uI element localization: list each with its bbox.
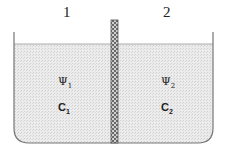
potential-1-symbol: Ψ	[58, 75, 68, 88]
compartment-1-label: 1	[63, 4, 71, 21]
potential-2-label: Ψ2	[161, 75, 175, 90]
concentration-2-subscript: 2	[169, 108, 173, 115]
membrane	[111, 20, 118, 143]
potential-1-label: Ψ1	[58, 75, 72, 90]
concentration-1-symbol: C	[58, 101, 66, 113]
potential-2-symbol: Ψ	[161, 75, 171, 88]
potential-1-subscript: 1	[68, 82, 72, 90]
potential-2-subscript: 2	[171, 82, 175, 90]
concentration-2-symbol: C	[161, 101, 169, 113]
concentration-1-label: C1	[58, 101, 70, 115]
compartment-2-label: 2	[163, 4, 171, 21]
concentration-1-subscript: 1	[66, 108, 70, 115]
concentration-2-label: C2	[161, 101, 173, 115]
diagram-canvas	[0, 0, 225, 153]
